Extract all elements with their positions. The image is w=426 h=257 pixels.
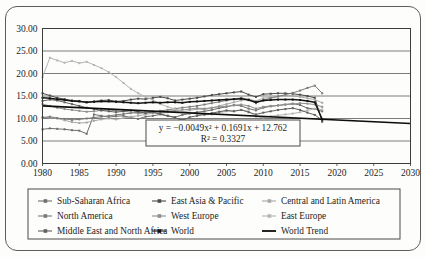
series-marker (78, 118, 80, 120)
series-marker (122, 113, 124, 115)
series-marker (86, 111, 88, 113)
series-marker (284, 113, 286, 115)
series-marker (203, 110, 205, 112)
legend-swatch-marker (268, 214, 272, 218)
series-marker (130, 99, 132, 101)
legend-swatch-marker (158, 199, 162, 203)
series-marker (78, 105, 80, 107)
series-marker (240, 104, 242, 106)
series-marker (159, 96, 161, 98)
chart-figure: 0.005.0010.0015.0020.0025.0030.00 198019… (0, 0, 426, 257)
series-marker (262, 93, 264, 95)
series-marker (218, 106, 220, 108)
legend-label: North America (57, 211, 113, 221)
series-marker (49, 97, 51, 99)
legend-label: World Trend (281, 226, 328, 236)
series-marker (314, 101, 316, 103)
x-axis-tick-labels: 1980198519901995200020052010201520202025… (33, 164, 420, 178)
chart-legend: Sub-Saharan AfricaEast Asia & PacificCen… (28, 189, 400, 239)
series-marker (277, 95, 279, 97)
series-marker (167, 97, 169, 99)
series-marker (203, 95, 205, 97)
series-marker (137, 102, 139, 104)
x-tick-label: 2015 (291, 168, 310, 178)
series-marker (314, 99, 316, 101)
series-marker (78, 130, 80, 132)
series-marker (189, 101, 191, 103)
series-marker (262, 97, 264, 99)
series-marker (196, 100, 198, 102)
series-marker (270, 97, 272, 99)
legend-swatch-marker (268, 199, 272, 203)
series-marker (100, 118, 102, 120)
r-squared-text: R² = 0.3327 (201, 134, 246, 144)
legend-label: World (171, 226, 194, 236)
legend-swatch-marker (44, 229, 48, 233)
x-tick-label: 2010 (254, 168, 273, 178)
y-tick-label: 30.00 (16, 24, 38, 34)
series-marker (248, 111, 250, 113)
series-marker (248, 108, 250, 110)
series-marker (71, 103, 73, 105)
series-marker (314, 97, 316, 99)
series-marker (299, 94, 301, 96)
chart-canvas: 0.005.0010.0015.0020.0025.0030.00 198019… (0, 0, 426, 257)
series-marker (71, 100, 73, 102)
series-marker (49, 127, 51, 129)
series-marker (145, 96, 147, 98)
series-marker (93, 110, 95, 112)
series-marker (306, 87, 308, 89)
series-marker (100, 67, 102, 69)
series-marker (262, 106, 264, 108)
series-marker (321, 106, 323, 108)
series-marker (240, 109, 242, 111)
series-marker (292, 103, 294, 105)
series-marker (292, 113, 294, 115)
series-marker (108, 115, 110, 117)
series-marker (196, 97, 198, 99)
series-marker (100, 100, 102, 102)
legend-item[interactable]: Middle East and North Africa (38, 226, 168, 236)
y-tick-label: 10.00 (16, 114, 38, 124)
series-marker (306, 100, 308, 102)
x-tick-label: 1985 (70, 168, 89, 178)
legend-swatch-marker (158, 214, 162, 218)
series-marker (189, 98, 191, 100)
series-marker (56, 117, 58, 119)
series-marker (64, 118, 66, 120)
series-marker (137, 92, 139, 94)
series-marker (56, 59, 58, 61)
series-marker (218, 99, 220, 101)
series-marker (203, 100, 205, 102)
series-marker (299, 99, 301, 101)
series-marker (240, 91, 242, 93)
series-marker (159, 102, 161, 104)
series-marker (255, 109, 257, 111)
series-marker (115, 114, 117, 116)
series-marker (115, 76, 117, 78)
y-tick-label: 25.00 (16, 46, 38, 56)
series-marker (64, 101, 66, 103)
series-marker (292, 99, 294, 101)
series-marker (233, 91, 235, 93)
series-marker (189, 106, 191, 108)
series-marker (233, 101, 235, 103)
y-axis-tick-labels: 0.005.0010.0015.0020.0025.0030.00 (16, 24, 38, 169)
series-marker (306, 109, 308, 111)
series-marker (93, 120, 95, 122)
series-marker (86, 61, 88, 63)
x-tick-label: 2025 (364, 168, 383, 178)
series-marker (71, 129, 73, 131)
series-marker (49, 57, 51, 59)
series-marker (174, 117, 176, 119)
series-marker (226, 99, 228, 101)
series-marker (130, 111, 132, 113)
series-marker (137, 98, 139, 100)
series-marker (277, 99, 279, 101)
series-marker (78, 100, 80, 102)
series-marker (86, 118, 88, 120)
series-marker (137, 115, 139, 117)
series-marker (100, 116, 102, 118)
series-marker (122, 82, 124, 84)
series-marker (262, 100, 264, 102)
